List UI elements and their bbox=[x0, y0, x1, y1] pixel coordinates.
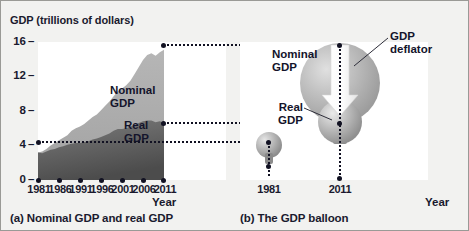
label-real-gdp-b: Real GDP bbox=[267, 101, 303, 126]
vertical-dotted-line-2011 bbox=[339, 44, 341, 178]
x-tick-2011-b: 2011 bbox=[323, 183, 357, 195]
panel-b-caption: (b) The GDP balloon bbox=[240, 212, 348, 224]
point-2011-real-b bbox=[337, 121, 342, 126]
leader-line-gdp-1981 bbox=[41, 141, 241, 143]
leader-line-real-2011 bbox=[166, 122, 244, 124]
x-axis-label-a: Year bbox=[152, 196, 176, 208]
plot-right-margin-a bbox=[165, 42, 226, 180]
point-2011-zero-b bbox=[337, 176, 342, 181]
point-1981-zero-b bbox=[266, 164, 271, 169]
datapoint-1986-zero bbox=[57, 178, 62, 183]
panel-a-caption: (a) Nominal GDP and real GDP bbox=[10, 212, 173, 224]
panel-a-nominal-and-real-gdp: GDP (trillions of dollars) 16– 12– 8– 4–… bbox=[0, 0, 236, 231]
datapoint-1996-zero bbox=[99, 178, 104, 183]
datapoint-2011-zero bbox=[161, 178, 166, 183]
leader-line-nominal-2011 bbox=[166, 44, 244, 46]
label-nominal-gdp-b: Nominal GDP bbox=[272, 48, 317, 73]
datapoint-1981-zero bbox=[36, 178, 41, 183]
panel-b-gdp-balloon: Nominal GDP Real GDP GDP deflator 1981 2… bbox=[236, 0, 469, 231]
datapoint-2001-zero bbox=[120, 178, 125, 183]
point-1981-gdp-b bbox=[266, 140, 271, 145]
x-tick-1981-b: 1981 bbox=[252, 183, 286, 195]
datapoint-1991-zero bbox=[78, 178, 83, 183]
point-2011-nominal-b bbox=[337, 43, 342, 48]
x-axis-label-b: Year bbox=[425, 196, 449, 208]
gdp-figure: GDP (trillions of dollars) 16– 12– 8– 4–… bbox=[0, 0, 469, 231]
vertical-dotted-line-1981 bbox=[268, 141, 270, 178]
label-gdp-deflator: GDP deflator bbox=[390, 30, 432, 55]
label-nominal-gdp: Nominal GDP bbox=[110, 84, 155, 109]
x-tick-2011: 2011 bbox=[148, 183, 182, 195]
datapoint-2006-zero bbox=[141, 178, 146, 183]
